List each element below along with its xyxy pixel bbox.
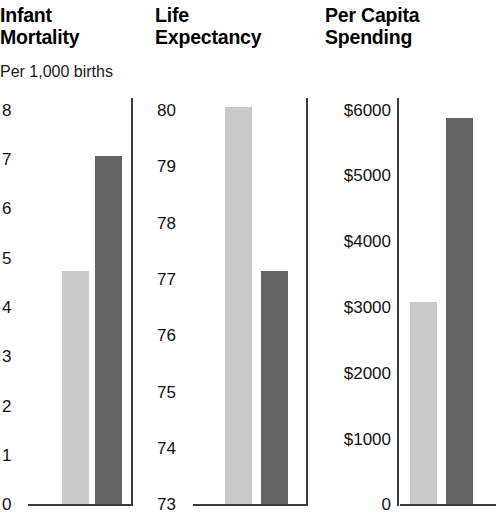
panel-infant-mortality: Infant Mortality Per 1,000 births 8 7 6 … [0,0,150,521]
plot-area: 80 79 78 77 76 75 74 73 [155,0,315,521]
y-tick-label: $1000 [325,431,391,448]
y-tick-label: 1 [2,447,11,464]
y-tick-label: 2 [2,398,11,415]
y-tick-label: 0 [325,496,391,513]
y-tick-label: $5000 [325,167,391,184]
y-axis-line [306,98,308,506]
y-tick-label: 78 [157,215,176,232]
y-tick-label: 76 [157,327,176,344]
y-tick-label: $3000 [325,299,391,316]
x-axis-baseline [193,504,307,506]
plot-area: 8 7 6 5 4 3 2 1 0 [0,0,150,521]
y-tick-label: 4 [2,299,11,316]
y-tick-label: 80 [157,102,176,119]
y-tick-label: 77 [157,271,176,288]
panel-life-expectancy: Life Expectancy 80 79 78 77 76 75 74 73 [155,0,315,521]
bar-light-series [225,107,252,504]
y-axis-line [131,98,133,506]
y-tick-label: 0 [2,496,11,513]
bar-dark-series [95,156,122,504]
y-tick-label: 75 [157,384,176,401]
bar-light-series [62,271,89,504]
y-tick-label: $6000 [325,102,391,119]
y-tick-label: $2000 [325,365,391,382]
three-panel-bar-chart-figure: Infant Mortality Per 1,000 births 8 7 6 … [0,0,496,521]
y-tick-label: 7 [2,151,11,168]
y-tick-label: 3 [2,348,11,365]
y-tick-label: 6 [2,200,11,217]
bar-dark-series [446,118,473,504]
y-tick-label: 74 [157,440,176,457]
y-tick-label: 73 [157,496,176,513]
bar-light-series [410,302,437,504]
panel-per-capita-spending: Per Capita Spending $6000 $5000 $4000 $3… [325,0,496,521]
y-tick-label: 5 [2,250,11,267]
y-axis-line [397,98,399,506]
bar-dark-series [261,271,288,504]
y-tick-label: $4000 [325,233,391,250]
y-tick-label: 79 [157,158,176,175]
plot-area: $6000 $5000 $4000 $3000 $2000 $1000 0 [325,0,496,521]
x-axis-baseline [28,504,132,506]
x-axis-baseline [400,504,496,506]
y-tick-label: 8 [2,102,11,119]
